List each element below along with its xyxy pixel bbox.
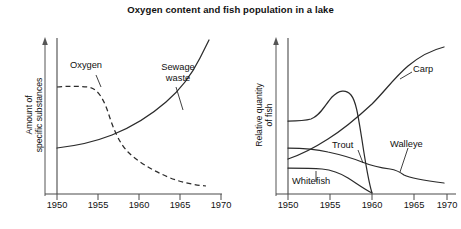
- sewage-waste-label-line2: waste: [166, 73, 190, 83]
- right-xtick-1950: 1950: [271, 200, 305, 210]
- right-xtick-1960: 1960: [355, 200, 389, 210]
- oxygen-label: Oxygen: [70, 60, 102, 71]
- right-xtick-1955: 1955: [313, 200, 347, 210]
- right-y-axis-arrow: [273, 37, 279, 196]
- left-xtick-1965: 1965: [163, 200, 197, 210]
- left-chart-panel: Amount of specific substances: [0, 0, 235, 229]
- right-xtick-1965: 1965: [397, 200, 431, 210]
- whitefish-label: Whitefish: [292, 176, 330, 187]
- right-chart-svg: [232, 0, 461, 229]
- sewage-waste-label: Sewage waste: [150, 62, 206, 83]
- sewage-label-leader: [176, 87, 183, 110]
- figure: Oxygen content and fish population in a …: [0, 0, 461, 229]
- left-xtick-1960: 1960: [122, 200, 156, 210]
- trout-label: Trout: [332, 140, 353, 151]
- left-xtick-1955: 1955: [81, 200, 115, 210]
- sewage-waste-label-line1: Sewage: [161, 62, 195, 72]
- walleye-label: Walleye: [390, 139, 423, 150]
- right-xtick-1970: 1970: [430, 200, 461, 210]
- right-chart-panel: Relative quantity of fish: [232, 0, 461, 229]
- left-y-axis-arrow: [42, 37, 48, 196]
- left-xtick-1950: 1950: [40, 200, 74, 210]
- walleye-label-leader: [400, 148, 408, 172]
- carp-label: Carp: [413, 64, 433, 75]
- left-chart-svg: [0, 0, 235, 229]
- oxygen-label-leader: [96, 75, 101, 87]
- oxygen-curve: [57, 86, 206, 186]
- carp-label-leader: [400, 72, 412, 79]
- sewage-curve: [57, 40, 209, 148]
